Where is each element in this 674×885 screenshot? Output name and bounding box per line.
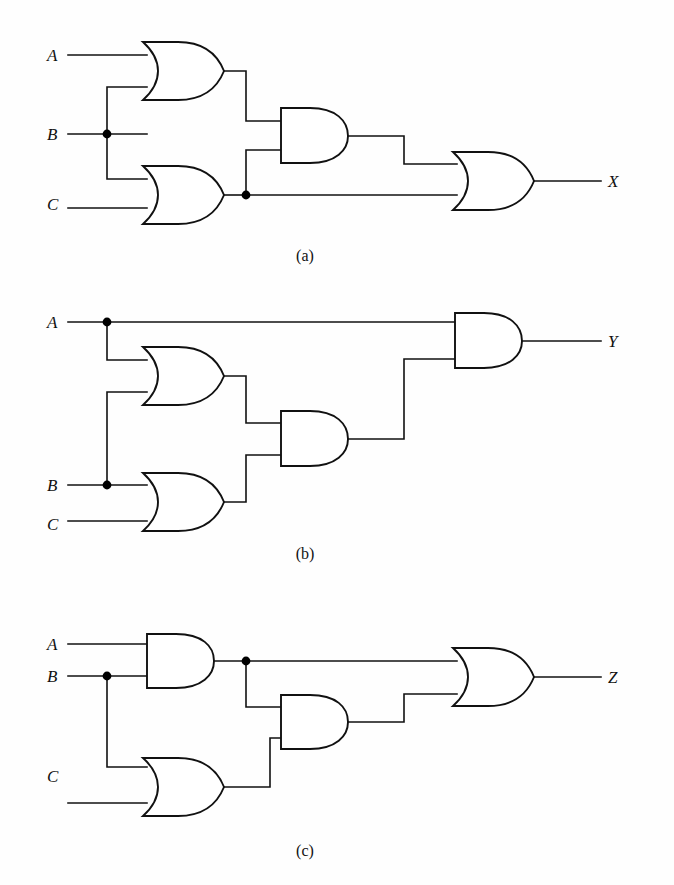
panel-c-input-label-c: C <box>47 767 59 786</box>
panel-a-input-label-a: A <box>46 46 58 65</box>
panel-b-or-gate-bottom[interactable] <box>143 473 224 531</box>
panel-c-output-label-z: Z <box>608 668 618 687</box>
panel-b: A B C <box>46 313 619 563</box>
panel-a-or-gate-bottom[interactable] <box>143 166 224 224</box>
panel-b-wire-and-to-andout <box>348 359 457 439</box>
panel-b-wire-ortop-to-and <box>224 376 281 423</box>
panel-c-or-gate-bottom[interactable] <box>143 758 224 816</box>
panel-b-caption: (b) <box>296 545 315 563</box>
panel-a-junction-dot-or-bottom <box>242 191 251 200</box>
panel-c: A B C <box>46 634 618 860</box>
logic-circuit-figure-sheet: A B C <box>0 0 674 885</box>
panel-a-input-label-b: B <box>47 125 58 144</box>
panel-b-wire-orbottom-to-and <box>224 455 281 502</box>
panel-c-and-gate-top[interactable] <box>147 634 214 688</box>
panel-a-input-label-c: C <box>47 195 59 214</box>
panel-c-junction-dot-and-top <box>242 657 251 666</box>
panel-a-wire-and-to-oropt <box>348 136 457 164</box>
panel-a-wire-orbottom-up-branch <box>246 150 281 195</box>
panel-a-wire-b-up-branch <box>107 87 147 134</box>
panel-b-wire-a-down-branch <box>107 322 147 360</box>
panel-b-and-gate-mid[interactable] <box>281 411 348 466</box>
panel-c-wire-and-to-orout <box>348 694 457 722</box>
panel-c-input-label-a: A <box>46 635 58 654</box>
panel-b-output-label-y: Y <box>608 332 619 351</box>
panel-a: A B C <box>46 42 619 265</box>
circuit-canvas: A B C <box>0 0 674 885</box>
panel-c-wire-andtop-down-branch <box>246 661 281 707</box>
panel-b-or-gate-top[interactable] <box>143 347 224 405</box>
panel-c-junction-dot-b <box>103 672 112 681</box>
panel-b-junction-dot-b <box>103 481 112 490</box>
panel-c-or-gate-output[interactable] <box>453 648 534 706</box>
panel-a-wire-ortop-to-and <box>224 71 281 121</box>
panel-b-junction-dot-a <box>103 318 112 327</box>
panel-a-or-gate-top[interactable] <box>143 42 224 100</box>
panel-a-or-gate-output[interactable] <box>453 152 534 210</box>
panel-a-junction-dot-b <box>103 130 112 139</box>
panel-c-wire-b-down-branch <box>107 676 147 767</box>
panel-b-input-label-c: C <box>47 515 59 534</box>
panel-b-input-label-b: B <box>47 476 58 495</box>
panel-b-input-label-a: A <box>46 313 58 332</box>
panel-a-and-gate-mid[interactable] <box>281 108 348 163</box>
panel-a-output-label-x: X <box>607 172 619 191</box>
panel-b-and-gate-output[interactable] <box>455 313 522 368</box>
panel-a-wire-b-down-branch <box>107 134 147 179</box>
panel-c-wire-or-to-and <box>224 738 281 787</box>
panel-a-caption: (a) <box>296 247 314 265</box>
panel-c-and-gate-mid[interactable] <box>281 695 348 749</box>
panel-c-input-label-b: B <box>47 667 58 686</box>
panel-c-caption: (c) <box>296 842 314 860</box>
